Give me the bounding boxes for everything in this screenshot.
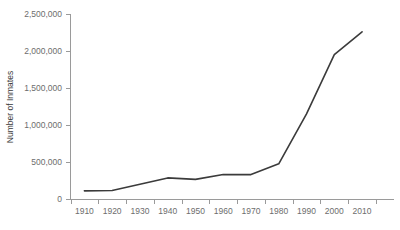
x-axis-tick-label: 1930 — [130, 206, 149, 216]
x-axis-tick-label: 1950 — [186, 206, 205, 216]
x-axis-tick-marks — [72, 200, 377, 205]
y-axis-tick-label: 500,000 — [31, 157, 62, 167]
x-axis-tick-label: 1940 — [158, 206, 177, 216]
x-axis-tick-label: 1920 — [103, 206, 122, 216]
line-chart: Number of Inmates 0500,0001,000,0001,500… — [0, 0, 400, 230]
x-axis-tick-label: 1980 — [269, 206, 288, 216]
y-axis-tick-labels: 0500,0001,000,0001,500,0002,000,0002,500… — [24, 9, 62, 204]
x-axis-tick-label: 2010 — [353, 206, 372, 216]
x-axis-tick-label: 1990 — [297, 206, 316, 216]
x-axis-tick-label: 2000 — [325, 206, 344, 216]
y-axis-tick-marks — [66, 15, 71, 200]
x-axis-tick-label: 1910 — [75, 206, 94, 216]
y-axis-tick-label: 1,000,000 — [24, 120, 62, 130]
x-axis-tick-label: 1970 — [242, 206, 261, 216]
y-axis-title-label: Number of Inmates — [5, 71, 15, 143]
data-series-line — [84, 32, 362, 191]
y-axis-title: Number of Inmates — [5, 71, 15, 143]
x-axis-tick-labels: 1910192019301940195019601970198019902000… — [75, 206, 372, 216]
y-axis-tick-label: 2,000,000 — [24, 46, 62, 56]
y-axis-tick-label: 2,500,000 — [24, 9, 62, 19]
chart-container: Number of Inmates 0500,0001,000,0001,500… — [0, 0, 400, 230]
y-axis-tick-label: 1,500,000 — [24, 83, 62, 93]
x-axis-tick-label: 1960 — [214, 206, 233, 216]
y-axis-tick-label: 0 — [57, 194, 62, 204]
